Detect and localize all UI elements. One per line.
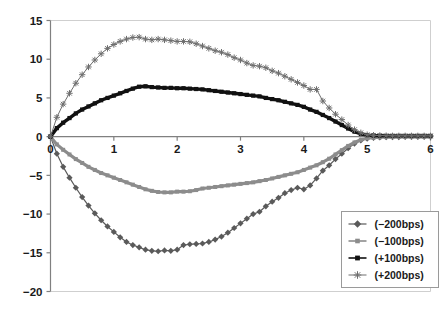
x-axis-label-1: 1 [111, 143, 118, 155]
data-point-minus100-15 [144, 187, 148, 191]
data-point-plus200-16 [149, 37, 155, 43]
data-point-minus100-24 [201, 187, 205, 191]
data-point-plus100-41 [308, 107, 312, 111]
legend-item-plus100[interactable]: (+100bps) [343, 250, 438, 267]
data-point-minus100-38 [289, 172, 293, 176]
data-point-minus100-31 [245, 181, 249, 185]
data-point-plus200-24 [199, 43, 205, 49]
data-point-plus100-28 [226, 90, 230, 94]
data-point-plus200-40 [301, 82, 307, 88]
data-point-plus100-35 [270, 97, 274, 101]
data-point-minus100-1 [55, 142, 59, 146]
data-point-minus100-17 [156, 190, 160, 194]
legend-label-plus100: (+100bps) [375, 252, 424, 264]
data-point-plus100-26 [213, 89, 217, 93]
data-point-minus100-29 [232, 183, 236, 187]
data-point-plus200-33 [256, 63, 262, 69]
data-point-minus100-46 [340, 148, 344, 152]
data-point-plus100-33 [257, 94, 261, 98]
y-axis-label-0: 15 [30, 15, 43, 27]
data-point-plus200-47 [345, 122, 351, 128]
data-point-minus100-41 [308, 166, 312, 170]
legend-item-minus200[interactable]: (−200bps) [343, 216, 438, 233]
data-point-plus100-15 [143, 84, 147, 88]
data-point-plus100-32 [251, 94, 255, 98]
data-point-minus100-25 [207, 186, 211, 190]
data-point-plus200-55 [396, 133, 402, 139]
chart-legend[interactable]: (−200bps)(−100bps)(+100bps)(+200bps) [342, 212, 439, 288]
legend-marker-minus100 [355, 239, 360, 244]
data-point-plus100-29 [232, 91, 236, 95]
data-point-plus200-34 [263, 65, 269, 71]
legend-label-plus200: (+200bps) [375, 269, 424, 281]
data-point-plus200-28 [225, 51, 231, 57]
data-point-plus100-44 [327, 116, 331, 120]
data-point-plus200-36 [275, 70, 281, 76]
data-point-minus100-2 [61, 148, 65, 152]
legend-item-minus100[interactable]: (−100bps) [343, 233, 438, 250]
x-axis-label-5: 5 [364, 143, 371, 155]
data-point-minus100-44 [327, 157, 331, 161]
y-axis-label-1: 10 [30, 53, 43, 65]
data-point-plus100-37 [283, 100, 287, 104]
data-point-minus100-20 [175, 190, 179, 194]
data-point-plus200-25 [206, 45, 212, 51]
data-point-plus200-1 [54, 114, 60, 120]
data-point-plus200-10 [111, 41, 117, 47]
data-point-plus200-41 [307, 86, 313, 92]
x-axis-label-2: 2 [174, 143, 180, 155]
data-point-plus100-34 [264, 96, 268, 100]
legend-label-minus100: (−100bps) [375, 235, 424, 247]
data-point-minus100-13 [131, 183, 135, 187]
data-point-plus100-2 [61, 121, 65, 125]
data-point-plus200-49 [358, 130, 364, 136]
legend-marker-plus100 [355, 256, 360, 261]
data-point-plus100-24 [200, 87, 204, 91]
data-point-plus100-22 [188, 87, 192, 91]
data-point-plus100-7 [93, 101, 97, 105]
data-point-minus100-14 [137, 185, 141, 189]
legend-item-plus200[interactable]: (+200bps) [343, 267, 438, 284]
data-point-plus200-21 [180, 38, 186, 44]
data-point-plus200-6 [85, 64, 91, 70]
y-axis-label-6: −15 [23, 247, 43, 259]
data-point-minus100-35 [270, 176, 274, 180]
data-point-minus100-8 [99, 171, 103, 175]
data-point-plus200-38 [288, 76, 294, 82]
data-point-plus200-12 [123, 36, 129, 42]
data-point-minus100-9 [106, 173, 110, 177]
data-point-plus100-3 [67, 116, 71, 120]
y-axis-label-4: −5 [29, 170, 43, 182]
data-point-minus100-48 [353, 140, 357, 144]
data-point-plus100-45 [333, 119, 337, 123]
data-point-plus200-17 [155, 36, 161, 42]
data-point-plus100-23 [194, 87, 198, 91]
data-point-plus200-53 [383, 133, 389, 139]
data-point-plus100-1 [55, 126, 59, 130]
data-point-plus200-57 [408, 133, 414, 139]
data-point-minus100-30 [239, 182, 243, 186]
data-point-plus200-43 [320, 98, 326, 104]
data-point-plus200-37 [282, 73, 288, 79]
data-point-plus200-7 [92, 57, 98, 63]
data-point-plus200-48 [351, 126, 357, 132]
data-point-plus100-38 [289, 101, 293, 105]
data-point-plus200-50 [364, 132, 370, 138]
data-point-plus200-54 [389, 133, 395, 139]
data-point-plus100-12 [124, 89, 128, 93]
data-point-plus100-13 [131, 87, 135, 91]
data-point-plus100-21 [181, 86, 185, 90]
x-axis-label-3: 3 [237, 143, 243, 155]
data-point-minus100-11 [118, 178, 122, 182]
line-chart: 151050−5−10−15−20 0123456 (−200bps)(−100… [0, 0, 445, 309]
data-point-plus200-39 [294, 79, 300, 85]
data-point-plus100-16 [150, 85, 154, 89]
data-point-plus100-25 [207, 88, 211, 92]
legend-marker-plus200 [354, 271, 362, 279]
data-point-plus200-46 [339, 116, 345, 122]
data-point-plus200-3 [66, 90, 72, 96]
x-axis-label-6: 6 [427, 143, 433, 155]
data-point-plus200-27 [218, 49, 224, 55]
data-point-plus100-46 [340, 123, 344, 127]
data-point-minus100-18 [163, 190, 167, 194]
